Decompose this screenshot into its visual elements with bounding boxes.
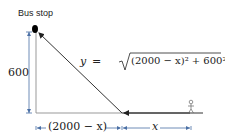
arrow-right-icon	[117, 126, 121, 130]
arrow-down-icon	[27, 109, 31, 113]
height-label: 600	[8, 66, 29, 79]
diagonal-path	[39, 33, 122, 113]
equation-equals: =	[92, 55, 101, 68]
arrow-up-icon	[27, 32, 31, 36]
equation-lhs: y	[80, 55, 86, 68]
distance-left-label: (2000 − x)	[48, 120, 107, 133]
person-icon	[188, 100, 194, 113]
equation-radicand: (2000 − x)² + 600²	[131, 55, 225, 66]
arrow-left-icon	[37, 126, 41, 130]
bus-stop-label: Bus stop	[18, 8, 53, 18]
distance-right-label: x	[152, 120, 158, 133]
diagram-canvas	[0, 0, 225, 137]
bus-stop-dot-icon	[32, 25, 38, 33]
arrow-right-icon	[186, 126, 190, 130]
